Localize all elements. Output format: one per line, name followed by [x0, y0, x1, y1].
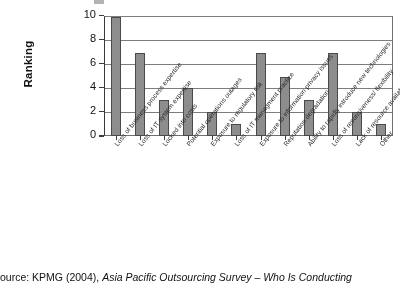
bar	[135, 53, 145, 136]
bar-slot	[346, 17, 370, 136]
bar	[304, 100, 314, 136]
x-axis-tick	[140, 136, 141, 140]
bar-slot	[225, 17, 249, 136]
x-axis-tick	[116, 136, 117, 140]
bar	[231, 124, 241, 136]
bar-slot	[322, 17, 346, 136]
y-axis-tick	[99, 87, 104, 88]
bar	[183, 88, 193, 136]
y-axis-tick-label: 4	[56, 81, 96, 92]
x-axis-tick	[261, 136, 262, 140]
bar-slot	[274, 17, 298, 136]
bar-slot	[105, 17, 129, 136]
y-axis-tick-label: 2	[56, 105, 96, 116]
x-axis-tick	[188, 136, 189, 140]
y-axis-tick	[99, 15, 104, 16]
bar-slot	[298, 17, 322, 136]
x-axis-tick	[309, 136, 310, 140]
bar-slot	[177, 17, 201, 136]
y-axis-title: Ranking	[22, 19, 34, 109]
bar	[352, 112, 362, 136]
x-axis-tick	[357, 136, 358, 140]
y-axis-tick-label: 8	[56, 33, 96, 44]
x-axis-tick	[164, 136, 165, 140]
bar	[256, 53, 266, 136]
bar	[280, 77, 290, 137]
scan-artifact	[94, 0, 104, 4]
bar-slot	[153, 17, 177, 136]
y-axis-tick	[99, 111, 104, 112]
bar-slot	[370, 17, 394, 136]
bar-slot	[250, 17, 274, 136]
bar	[111, 17, 121, 136]
caption-source-title: Asia Pacific Outsourcing Survey – Who Is…	[102, 271, 352, 283]
figure-caption: ource: KPMG (2004), Asia Pacific Outsour…	[0, 271, 400, 284]
bar-slot	[201, 17, 225, 136]
y-axis-tick	[99, 39, 104, 40]
x-axis-tick	[381, 136, 382, 140]
bar	[328, 53, 338, 136]
y-axis-tick-label: 0	[56, 129, 96, 140]
bar-series	[105, 17, 392, 136]
x-axis-tick	[285, 136, 286, 140]
y-axis-tick-label: 6	[56, 57, 96, 68]
caption-prefix: ource: KPMG (2004),	[0, 271, 102, 283]
bar	[159, 100, 169, 136]
x-axis-tick	[333, 136, 334, 140]
y-axis-zero-tick	[99, 136, 104, 137]
y-axis-tick-label: 10	[56, 9, 96, 20]
y-axis-tick	[99, 63, 104, 64]
x-axis-tick	[236, 136, 237, 140]
chart-figure: Ranking 0246810 Loss of business process…	[0, 0, 400, 295]
x-axis-tick	[212, 136, 213, 140]
bar-slot	[129, 17, 153, 136]
bar	[207, 112, 217, 136]
bar	[376, 124, 386, 136]
